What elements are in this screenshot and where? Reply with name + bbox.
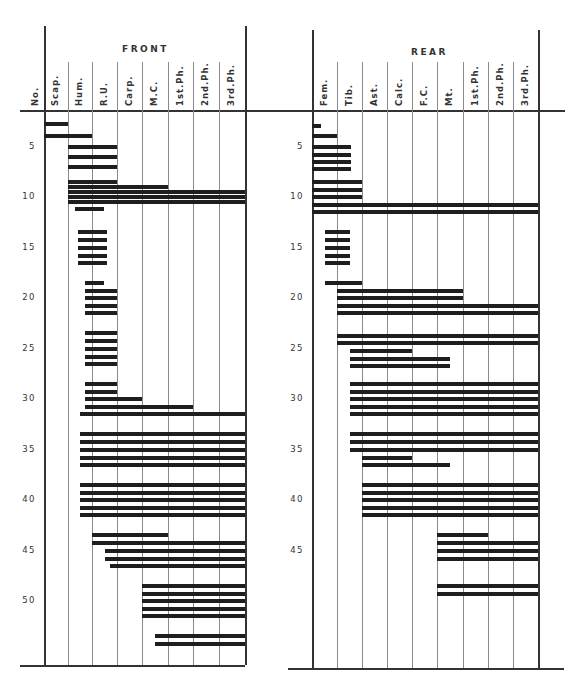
rear-bar	[362, 456, 412, 460]
rear-bar	[312, 167, 351, 171]
rear-bar	[312, 210, 538, 214]
rear-bar	[437, 541, 538, 545]
rear-bar	[437, 584, 538, 588]
rear-col-line	[513, 62, 514, 668]
front-bar	[92, 533, 168, 537]
front-col-header: 2nd.Ph.	[200, 62, 210, 106]
front-bar	[110, 564, 246, 568]
rear-bar	[312, 180, 362, 184]
rear-bar	[325, 238, 350, 242]
front-bar	[85, 304, 117, 308]
front-col-header: Carp.	[124, 76, 134, 106]
rear-bar	[350, 349, 413, 353]
front-bar	[80, 491, 245, 495]
rear-col-line	[488, 62, 489, 668]
front-col-line	[245, 26, 247, 665]
front-col-header: 1st.Ph.	[175, 65, 185, 106]
front-bar	[85, 289, 117, 293]
rear-col-header: Tib.	[344, 84, 354, 106]
front-bar	[85, 347, 117, 351]
front-bar	[105, 549, 246, 553]
rear-col-header: F.C.	[419, 85, 429, 106]
front-bar	[85, 339, 117, 343]
front-col-header: Scap.	[50, 75, 60, 106]
front-bar	[85, 296, 117, 300]
rear-bar	[312, 188, 362, 192]
front-bar	[44, 134, 92, 138]
rear-row-label: 25	[276, 343, 304, 353]
front-bar	[68, 155, 117, 159]
front-bar	[85, 390, 117, 394]
rear-bar	[362, 506, 538, 510]
front-bar	[80, 440, 245, 444]
front-bar	[68, 145, 117, 149]
rear-bar	[350, 364, 451, 368]
front-col-line	[68, 62, 69, 665]
front-bar	[80, 432, 245, 436]
front-bar	[68, 165, 117, 169]
front-bar	[142, 607, 245, 611]
front-row-label: 50	[8, 595, 36, 605]
front-title: FRONT	[122, 44, 169, 54]
rear-bar	[362, 498, 538, 502]
rear-bar	[337, 289, 463, 293]
front-bar	[80, 412, 245, 416]
front-bar	[85, 311, 117, 315]
front-bar	[78, 246, 107, 250]
rear-bar	[437, 533, 488, 537]
rear-bottom-rule	[288, 668, 564, 670]
front-row-label: 30	[8, 393, 36, 403]
rear-row-label: 20	[276, 292, 304, 302]
front-bar	[68, 185, 168, 189]
front-bar	[85, 397, 142, 401]
front-col-line	[219, 62, 220, 665]
rear-bar	[362, 483, 538, 487]
rear-bar	[350, 382, 539, 386]
rear-bar	[337, 341, 538, 345]
rear-col-line	[538, 30, 540, 668]
rear-col-header: Ast.	[369, 83, 379, 106]
rear-bar	[312, 134, 337, 138]
rear-col-header: 2nd.Ph.	[495, 62, 505, 106]
front-bar	[155, 642, 245, 646]
front-col-header: Hum.	[74, 77, 84, 106]
rear-row-label: 40	[276, 494, 304, 504]
front-bar	[80, 506, 245, 510]
front-bar	[105, 557, 246, 561]
front-bar	[44, 122, 68, 126]
rear-bar	[437, 592, 538, 596]
front-bar	[85, 405, 193, 409]
front-bar	[80, 463, 245, 467]
rear-row-label: 35	[276, 444, 304, 454]
rear-bar	[325, 246, 350, 250]
rear-bar	[325, 261, 350, 265]
front-row-label: 45	[8, 545, 36, 555]
front-row-label: 40	[8, 494, 36, 504]
front-bar	[85, 331, 117, 335]
rear-bar	[350, 440, 539, 444]
front-bar	[142, 584, 245, 588]
front-bar	[142, 614, 245, 618]
rear-bar	[312, 153, 351, 157]
rear-row-label: 15	[276, 242, 304, 252]
rear-bar	[362, 463, 450, 467]
rear-row-label: 30	[276, 393, 304, 403]
rear-bar	[337, 311, 538, 315]
front-row-label: 15	[8, 242, 36, 252]
rear-col-header: Mt.	[444, 87, 454, 106]
rear-bar	[350, 448, 539, 452]
front-row-label: 20	[8, 292, 36, 302]
front-bar	[80, 498, 245, 502]
rear-bar	[312, 145, 351, 149]
rear-bar	[350, 357, 451, 361]
rear-col-line	[463, 62, 464, 668]
front-col-line	[142, 62, 143, 665]
front-bar	[92, 541, 245, 545]
rear-row-label: 5	[276, 141, 304, 151]
rear-bar	[437, 549, 538, 553]
front-col-line	[168, 62, 169, 665]
rear-bar	[325, 230, 350, 234]
front-row-label: 25	[8, 343, 36, 353]
rear-bar	[350, 432, 539, 436]
front-bar	[80, 483, 245, 487]
